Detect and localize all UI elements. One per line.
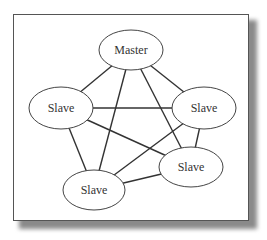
network-diagram: Master Slave Slave Slave Slave (0, 0, 267, 240)
node-slave-left: Slave (29, 87, 93, 129)
node-slave-bottom-left: Slave (63, 170, 125, 210)
master-label: Master (114, 43, 147, 57)
edge-master-slave-bottom-left (94, 50, 131, 190)
slave-left-label: Slave (48, 101, 75, 115)
slave-right-label: Slave (191, 101, 218, 115)
node-master: Master (99, 30, 163, 70)
node-slave-bottom-right: Slave (159, 147, 223, 187)
slave-bottom-left-label: Slave (81, 183, 108, 197)
nodes-group: Master Slave Slave Slave Slave (29, 30, 236, 210)
slave-bottom-right-label: Slave (178, 160, 205, 174)
node-slave-right: Slave (172, 87, 236, 129)
